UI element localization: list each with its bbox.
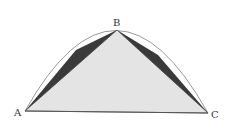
label-a: A: [13, 107, 22, 118]
parabola-diagram: A B C: [0, 0, 234, 131]
label-b: B: [113, 17, 120, 28]
label-c: C: [211, 109, 219, 120]
